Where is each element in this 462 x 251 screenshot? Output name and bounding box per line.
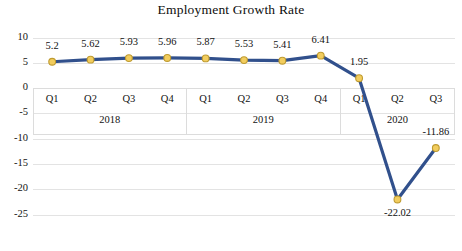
data-point-hit-area[interactable] xyxy=(85,54,96,65)
year-label: 2020 xyxy=(387,114,408,125)
data-point-label: 5.41 xyxy=(273,39,291,50)
data-point-hit-area[interactable] xyxy=(430,143,441,154)
data-point-hit-area[interactable] xyxy=(123,53,134,64)
employment-growth-rate-chart: Employment Growth Rate 1050-5-10-15-20-2… xyxy=(0,0,462,251)
data-point-label: 6.41 xyxy=(312,34,330,45)
data-point-label: 5.93 xyxy=(120,36,138,47)
quarter-label: Q1 xyxy=(46,93,59,104)
data-point-hit-area[interactable] xyxy=(239,55,250,66)
y-axis-tick-label: -5 xyxy=(2,106,28,117)
category-axis-band: Q1Q2Q3Q4Q1Q2Q3Q4Q1Q2Q3201820192020 xyxy=(33,88,455,135)
data-point-hit-area[interactable] xyxy=(277,55,288,66)
y-axis-tick-label: -15 xyxy=(2,157,28,168)
year-group-separator xyxy=(186,89,187,134)
y-axis-tick-label: 0 xyxy=(2,81,28,92)
quarter-label: Q4 xyxy=(161,93,174,104)
gridline xyxy=(33,189,455,190)
gridline xyxy=(33,139,455,140)
data-point-hit-area[interactable] xyxy=(392,194,403,205)
y-axis-tick-label: -25 xyxy=(2,208,28,219)
data-point-label: 1.95 xyxy=(350,56,368,67)
chart-title: Employment Growth Rate xyxy=(0,2,462,18)
year-label: 2018 xyxy=(99,114,120,125)
data-point-hit-area[interactable] xyxy=(162,52,173,63)
year-group-separator xyxy=(340,89,341,134)
quarter-label: Q3 xyxy=(276,93,289,104)
category-band-edge xyxy=(454,89,455,134)
data-point-label: -22.02 xyxy=(384,207,411,218)
quarter-label: Q3 xyxy=(122,93,135,104)
y-axis-tick-label: 5 xyxy=(2,56,28,67)
quarter-label: Q2 xyxy=(391,93,404,104)
data-point-label: 5.53 xyxy=(235,38,253,49)
data-point-hit-area[interactable] xyxy=(315,50,326,61)
category-band-edge xyxy=(33,89,34,134)
quarter-label: Q2 xyxy=(238,93,251,104)
data-point-label: 5.87 xyxy=(196,36,214,47)
quarter-label: Q4 xyxy=(314,93,327,104)
data-point-hit-area[interactable] xyxy=(47,56,58,67)
data-point-label: 5.96 xyxy=(158,36,176,47)
data-point-label: -11.86 xyxy=(422,126,449,137)
quarter-label: Q2 xyxy=(84,93,97,104)
data-point-label: 5.2 xyxy=(46,40,59,51)
y-axis-tick-label: -20 xyxy=(2,182,28,193)
data-point-hit-area[interactable] xyxy=(200,53,211,64)
quarter-label: Q1 xyxy=(199,93,212,104)
data-point-label: 5.62 xyxy=(81,38,99,49)
quarter-label: Q1 xyxy=(353,93,366,104)
gridline xyxy=(33,164,455,165)
data-point-hit-area[interactable] xyxy=(354,73,365,84)
y-axis-tick-label: -10 xyxy=(2,132,28,143)
y-axis-tick-label: 10 xyxy=(2,31,28,42)
year-label: 2019 xyxy=(253,114,274,125)
quarter-label: Q3 xyxy=(429,93,442,104)
